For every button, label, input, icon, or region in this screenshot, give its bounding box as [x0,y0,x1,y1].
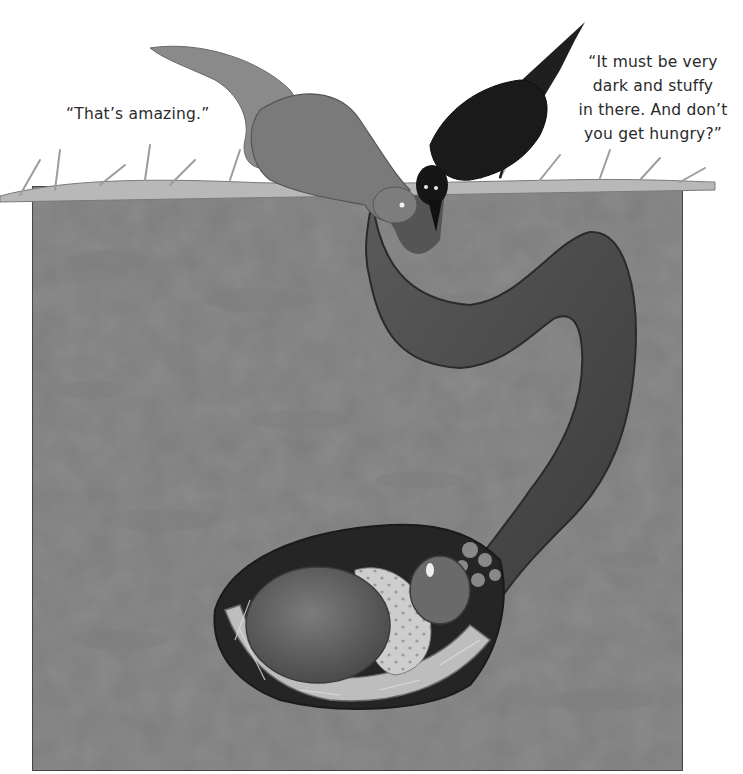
crow-speech-text: “It must be very dark and stuffy in ther… [568,50,738,146]
sleeping-animal-body [246,567,390,683]
squirrel-speech-text: “That’s amazing.” [66,102,236,126]
sleeping-animal-head [410,556,470,624]
